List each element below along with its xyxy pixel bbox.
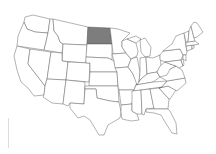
state-kansas[interactable]: Kansas	[89, 72, 118, 86]
state-nebraska[interactable]: Nebraska	[86, 57, 117, 72]
state-arizona[interactable]: Arizona	[43, 79, 66, 104]
state-mississippi[interactable]: Mississippi	[132, 90, 142, 114]
state-new-mexico[interactable]: New Mexico	[63, 80, 85, 106]
state-arkansas[interactable]: Arkansas	[119, 90, 134, 105]
state-rhode-island[interactable]: Rhode Island	[192, 45, 194, 49]
state-wyoming[interactable]: Wyoming	[62, 44, 87, 63]
state-new-jersey[interactable]: New Jersey	[183, 55, 186, 61]
state-florida[interactable]: Florida	[146, 109, 177, 134]
state-colorado[interactable]: Colorado	[66, 62, 90, 82]
state-north-dakota[interactable]: North Dakota	[87, 27, 112, 44]
us-map: Washington Oregon California Idaho Nevad…	[0, 0, 216, 154]
edge-divider	[8, 118, 9, 148]
